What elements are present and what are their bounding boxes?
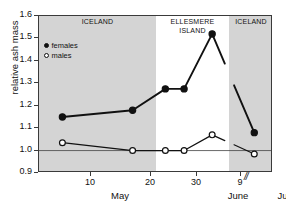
series-females — [59, 31, 257, 136]
legend: femalesmales — [44, 41, 78, 60]
data-point — [59, 114, 65, 120]
data-point — [162, 86, 168, 92]
x-tick-label: 30 — [191, 177, 201, 187]
x-tick-mark — [196, 172, 197, 176]
legend-item: males — [44, 51, 78, 61]
y-tick-label: 1.4 — [2, 54, 32, 64]
legend-item: females — [44, 41, 78, 51]
data-point — [209, 132, 215, 138]
filled-circle-icon — [44, 43, 49, 48]
axis-break-icon: // — [244, 171, 248, 182]
x-tick-mark — [240, 172, 241, 176]
y-tick-label: 1.5 — [2, 31, 32, 41]
open-circle-icon — [44, 53, 49, 58]
series-line — [62, 34, 224, 117]
y-tick-label: 1.6 — [2, 9, 32, 19]
data-point — [130, 148, 136, 154]
data-point — [181, 148, 187, 154]
y-tick-label: 1.1 — [2, 121, 32, 131]
legend-label: males — [52, 51, 72, 61]
x-month-label: July — [278, 190, 286, 201]
y-tick-label: 1.2 — [2, 99, 32, 109]
y-tick-label: 1.0 — [2, 144, 32, 154]
legend-label: females — [52, 41, 78, 51]
chart-svg — [39, 16, 272, 172]
x-tick-label: 20 — [145, 177, 155, 187]
series-line — [62, 135, 224, 151]
data-point — [60, 140, 66, 146]
data-point — [130, 107, 136, 113]
y-tick-label: 1.3 — [2, 76, 32, 86]
chart-figure: relative ash mass 1.61.51.41.31.21.11.00… — [0, 0, 286, 207]
data-point — [209, 31, 215, 37]
x-month-label: May — [111, 190, 129, 201]
data-point — [162, 148, 168, 154]
y-tick-mark — [34, 172, 38, 173]
x-month-label: June — [228, 190, 249, 201]
series-males — [60, 132, 258, 157]
x-tick-mark — [150, 172, 151, 176]
y-tick-label: 0.9 — [2, 166, 32, 176]
data-point — [251, 151, 257, 157]
plot-area: ICELANDELLESMERE ISLANDICELAND — [38, 15, 272, 172]
x-tick-mark — [90, 172, 91, 176]
x-tick-label: 9 — [237, 177, 242, 187]
data-point — [181, 86, 187, 92]
data-point — [251, 130, 257, 136]
series-line — [234, 85, 254, 132]
x-tick-label: 10 — [85, 177, 95, 187]
